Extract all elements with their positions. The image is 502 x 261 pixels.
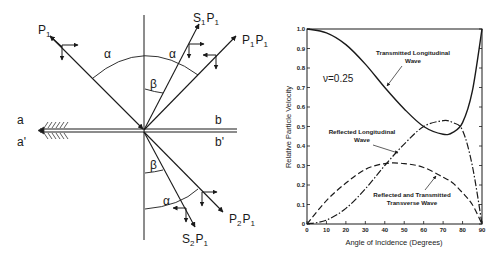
label-reflected-longitudinal-2: Wave: [354, 136, 370, 143]
x-tick-label: 70: [440, 227, 447, 233]
incident-ray-back: [50, 36, 62, 47]
label-transmitted-s2p1: S2P1: [182, 232, 208, 248]
poisson-ratio-label: ν=0.25: [323, 73, 354, 84]
y-tick-label: 0.6: [297, 104, 306, 110]
y-axis-title: Relative Particle Velocity: [284, 86, 293, 168]
alpha-arc-bottom: [145, 189, 198, 209]
alpha-symbol-right: α: [169, 47, 176, 61]
label-transverse: Reflected and Transmitted: [373, 191, 451, 198]
x-tick-label: 80: [459, 227, 466, 233]
alpha-symbol-left: α: [104, 47, 111, 61]
leader-transverse: [425, 176, 436, 190]
label-reflected-longitudinal: Reflected Longitudinal: [329, 128, 396, 135]
x-tick-label: 10: [323, 227, 330, 233]
x-tick-label: 60: [420, 227, 427, 233]
label-transmitted-longitudinal: Transmitted Longitudinal: [376, 49, 450, 56]
leader-reflected: [373, 145, 398, 153]
wave-diagram: a a' b b' P1 S1P1 P1P1 α α β P2P1: [17, 11, 268, 248]
transmitted-s-ray: [144, 132, 195, 227]
y-tick-label: 0.7: [297, 85, 306, 91]
figure: a a' b b' P1 S1P1 P1P1 α α β P2P1: [0, 0, 502, 261]
x-tick-label: 90: [479, 227, 486, 233]
y-tick-label: 0.4: [297, 143, 306, 149]
x-tick-label: 50: [401, 227, 408, 233]
y-tick-label: 0.8: [297, 65, 306, 71]
x-tick-label: 20: [343, 227, 350, 233]
label-transmitted-p2p1: P2P1: [229, 212, 255, 228]
hatched-arrow-icon: [38, 122, 68, 139]
label-reflected-s1p1: S1P1: [193, 11, 219, 27]
y-tick-label: 1.0: [297, 26, 306, 32]
label-transmitted-longitudinal-2: Wave: [405, 57, 421, 64]
label-a-prime: a': [17, 135, 26, 149]
y-tick-label: 0.2: [297, 182, 306, 188]
label-b-prime: b': [215, 135, 224, 149]
incident-ray: [50, 36, 143, 129]
x-tick-label: 40: [381, 227, 388, 233]
reflected-p-ray: [144, 36, 236, 130]
chart: 00.10.20.30.40.50.60.70.80.91.0 01020304…: [284, 26, 486, 247]
y-tick-label: 0.5: [297, 124, 306, 130]
series-line-2: [307, 120, 482, 224]
alpha-symbol-bottom: α: [163, 194, 170, 208]
beta-symbol-top: β: [150, 77, 157, 91]
leader-transmitted: [387, 66, 402, 86]
label-a: a: [17, 113, 24, 127]
label-b: b: [215, 113, 222, 127]
beta-symbol-bottom: β: [150, 158, 157, 172]
x-axis-title: Angle of Incidence (Degrees): [345, 238, 443, 247]
label-incident-p1: P1: [38, 23, 51, 39]
y-tick-label: 0.9: [297, 46, 306, 52]
label-transverse-2: Transverse Wave: [387, 199, 438, 206]
x-tick-label: 30: [362, 227, 369, 233]
x-tick-label: 0: [305, 227, 309, 233]
interface-line: [40, 129, 237, 132]
x-axis-ticks: 0102030405060708090: [305, 221, 486, 233]
y-tick-label: 0.1: [297, 202, 306, 208]
y-tick-label: 0.3: [297, 163, 306, 169]
label-reflected-p1p1: P1P1: [242, 33, 268, 49]
transmitted-p-ray: [144, 132, 223, 212]
